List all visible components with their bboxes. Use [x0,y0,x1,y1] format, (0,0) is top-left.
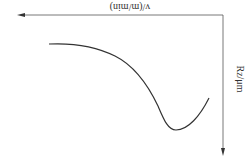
y-axis [221,15,225,156]
y-axis-label: Rz/μm [233,61,247,97]
chart-plot [0,0,252,167]
data-curve [49,44,209,130]
x-axis-label: v/(m/min) [100,0,160,14]
y-axis-arrow-icon [221,148,225,156]
chart-figure: v/(m/min) Rz/μm [0,0,252,167]
x-axis-arrow-icon [17,13,25,17]
